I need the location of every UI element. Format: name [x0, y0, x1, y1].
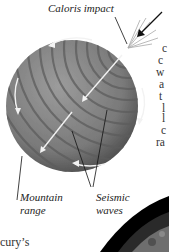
- clipped-caption-text: cury’s: [0, 236, 29, 248]
- label-seismic-line2: waves: [96, 204, 123, 216]
- text-fragment: l: [162, 112, 165, 124]
- text-fragment: a: [159, 78, 164, 90]
- label-mountain-line2: range: [20, 204, 46, 216]
- impactor-arrow-icon: [137, 12, 162, 37]
- label-mountain-line1: Mountain: [20, 191, 63, 203]
- text-fragment: c: [158, 54, 163, 66]
- text-fragment: t: [159, 90, 162, 102]
- text-fragment: ra: [156, 136, 165, 148]
- text-fragment: w: [156, 66, 164, 78]
- text-fragment: c: [161, 124, 166, 136]
- text-fragment: c: [162, 42, 167, 54]
- label-caloris-impact: Caloris impact: [48, 2, 114, 14]
- label-seismic-line1: Seismic: [96, 191, 130, 203]
